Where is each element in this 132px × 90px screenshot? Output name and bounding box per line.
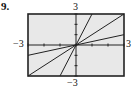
plot	[0, 0, 132, 90]
